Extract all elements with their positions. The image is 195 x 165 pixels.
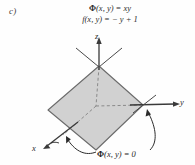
caption-phi-symbol: Φ [97, 149, 104, 159]
axis-label-z: z [95, 31, 98, 41]
bottom-caption: Φ(x, y) = 0 [97, 149, 136, 159]
formula-line-f: f(x, y) = − y + 1 [58, 14, 162, 25]
annotation-arrow-right-head [146, 109, 151, 116]
phi-expression: (x, y) = xy [96, 3, 131, 13]
phi-symbol: Φ [89, 3, 96, 13]
formula-block: Φ(x, y) = xy f(x, y) = − y + 1 [58, 3, 162, 25]
figure-container: c) Φ(x, y) = xy f(x, y) = − y + 1 Φ(x, y… [0, 0, 195, 165]
axis-label-x: x [32, 143, 36, 153]
annotation-pointer-x-curve [51, 142, 59, 143]
f-expression: (x, y) = − y + 1 [85, 14, 138, 24]
part-label: c) [9, 6, 16, 16]
formula-line-phi: Φ(x, y) = xy [58, 3, 162, 14]
axis-label-y: y [180, 97, 184, 107]
caption-expression: (x, y) = 0 [104, 149, 136, 159]
annotation-arrow-right-curve [149, 114, 155, 150]
corner-tick-top-right [99, 48, 122, 67]
corner-tick-top-left [76, 48, 99, 67]
shaded-plane-surface [48, 66, 143, 150]
y-axis-arrowhead [173, 101, 180, 106]
